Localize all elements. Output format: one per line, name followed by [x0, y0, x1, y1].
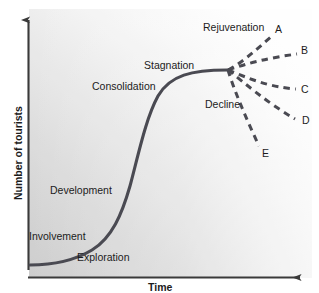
annotation-decline: Decline	[205, 99, 240, 110]
branch-label-d: D	[302, 115, 310, 126]
x-axis-label: Time	[148, 282, 172, 293]
annotation-involvement: Involvement	[29, 231, 86, 242]
chart-canvas	[0, 0, 319, 293]
annotation-rejuvenation: Rejuvenation	[203, 22, 264, 33]
tourism-area-life-cycle-chart: Number of tourists Time Exploration Invo…	[0, 0, 319, 293]
annotation-consolidation: Consolidation	[92, 81, 156, 92]
y-axis-label: Number of tourists	[13, 106, 24, 200]
annotation-development: Development	[50, 185, 112, 196]
branch-label-c: C	[301, 84, 309, 95]
branch-label-b: B	[301, 45, 308, 56]
annotation-exploration: Exploration	[77, 252, 130, 263]
branch-label-e: E	[262, 148, 269, 159]
annotation-stagnation: Stagnation	[144, 60, 194, 71]
branch-label-a: A	[275, 24, 282, 35]
